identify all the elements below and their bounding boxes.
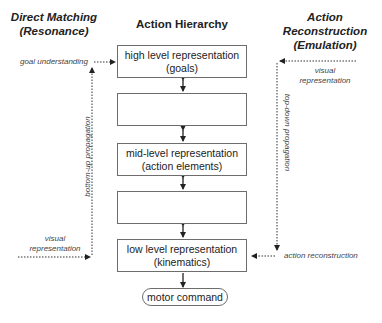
box-line1: high level representation <box>125 49 239 62</box>
box-line2: (kinematics) <box>154 256 211 269</box>
label-line2: representation <box>20 244 90 254</box>
empty-level-box-1 <box>117 93 247 126</box>
motor-command-node: motor command <box>142 288 228 306</box>
right-visual-representation-label: visual representation <box>290 66 360 86</box>
label-line2: representation <box>290 76 360 86</box>
low-level-representation-box: low level representation (kinematics) <box>117 239 247 272</box>
goal-understanding-label: goal understanding <box>8 57 92 67</box>
top-down-propagation-label: top-down propagation <box>283 88 292 178</box>
label-line1: visual <box>20 234 90 244</box>
box-line1: low level representation <box>127 243 237 256</box>
box-line1: mid-level representation <box>126 147 238 160</box>
mid-level-representation-box: mid-level representation (action element… <box>117 143 247 176</box>
empty-level-box-2 <box>117 191 247 224</box>
box-line2: (goals) <box>166 62 198 75</box>
box-line2: (action elements) <box>142 160 223 173</box>
high-level-representation-box: high level representation (goals) <box>117 45 247 78</box>
label-line1: visual <box>290 66 360 76</box>
action-reconstruction-label: action reconstruction <box>284 251 382 261</box>
left-visual-representation-label: visual representation <box>20 234 90 254</box>
bottom-up-propagation-label: bottom-up propagation <box>83 112 92 202</box>
